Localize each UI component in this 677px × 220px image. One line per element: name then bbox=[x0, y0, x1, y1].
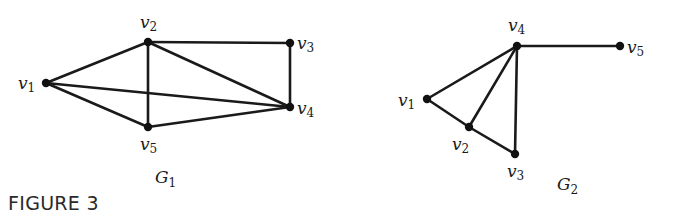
edge-v1-v4 bbox=[427, 46, 517, 99]
edge-v2-v4 bbox=[469, 46, 517, 127]
vertex-v1 bbox=[42, 79, 50, 87]
vertex-label-v5: v5 bbox=[140, 134, 157, 156]
vertex-label-v3: v3 bbox=[297, 33, 314, 55]
vertex-v5 bbox=[616, 42, 624, 50]
edge-v1-v2 bbox=[427, 99, 469, 127]
vertex-label-v1: v1 bbox=[398, 90, 415, 112]
vertex-label-v5: v5 bbox=[627, 37, 644, 59]
vertex-label-v1: v1 bbox=[18, 73, 35, 95]
graph-g2: v1v2v3v4v5G2 bbox=[398, 15, 644, 197]
vertex-label-v4: v4 bbox=[508, 15, 526, 37]
vertex-v4 bbox=[286, 103, 294, 111]
edge-v1-v4 bbox=[46, 83, 290, 107]
edge-v2-v4 bbox=[148, 42, 290, 107]
edge-v1-v5 bbox=[46, 83, 148, 127]
edge-v3-v4 bbox=[515, 46, 517, 154]
edge-v2-v3 bbox=[469, 127, 515, 154]
edge-v4-v5 bbox=[148, 107, 290, 127]
vertex-label-v2: v2 bbox=[140, 12, 157, 34]
vertex-v4 bbox=[513, 42, 521, 50]
edge-v2-v3 bbox=[148, 42, 290, 43]
vertex-v5 bbox=[144, 123, 152, 131]
vertex-v3 bbox=[511, 150, 519, 158]
edge-v1-v2 bbox=[46, 42, 148, 83]
graph-g1: v1v2v3v4v5G1 bbox=[18, 12, 315, 190]
vertex-label-v3: v3 bbox=[507, 161, 524, 183]
vertex-label-v2: v2 bbox=[452, 134, 469, 156]
vertex-v3 bbox=[286, 39, 294, 47]
graph-label-g1: G1 bbox=[155, 167, 176, 190]
vertex-v2 bbox=[465, 123, 473, 131]
graph-label-g2: G2 bbox=[557, 174, 578, 197]
figure-caption: FIGURE 3 bbox=[8, 192, 99, 214]
vertex-label-v4: v4 bbox=[297, 98, 315, 120]
vertex-v1 bbox=[423, 95, 431, 103]
vertex-v2 bbox=[144, 38, 152, 46]
figure-canvas: v1v2v3v4v5G1 v1v2v3v4v5G2 bbox=[0, 0, 677, 220]
